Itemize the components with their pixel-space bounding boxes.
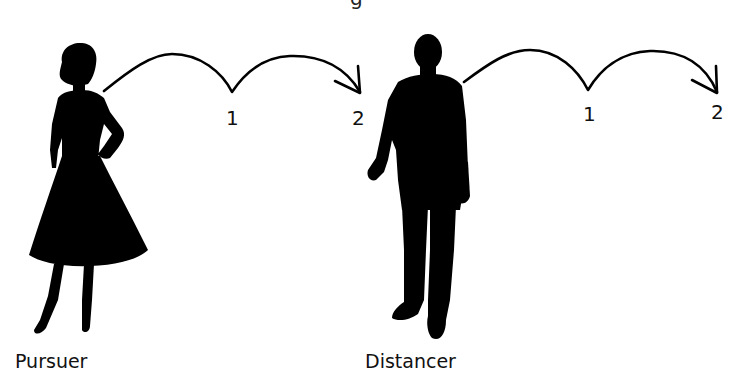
pursuer-distancer-diagram: g: [0, 0, 745, 390]
step-label-2: 2: [352, 108, 365, 128]
man-silhouette-icon: [367, 34, 470, 339]
double-arc-arrow-1: [104, 54, 360, 93]
woman-silhouette-icon: [29, 43, 148, 334]
double-arc-arrow-2: [464, 50, 717, 93]
diagram-graphics: [0, 0, 745, 390]
pursuer-label: Pursuer: [15, 352, 87, 371]
distancer-label: Distancer: [365, 352, 456, 371]
step-label-1: 1: [226, 108, 239, 128]
step-label-1: 1: [583, 104, 596, 124]
step-label-2: 2: [711, 102, 724, 122]
